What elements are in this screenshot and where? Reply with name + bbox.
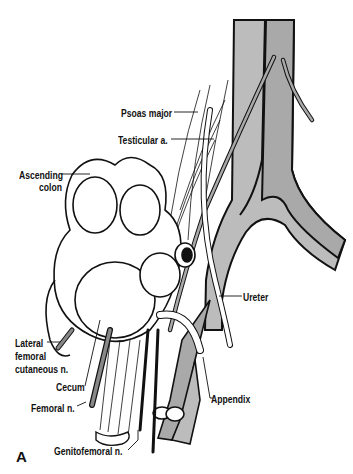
- panel-letter: A: [16, 448, 27, 465]
- label-femoral-nerve: Femoral n.: [31, 402, 75, 414]
- label-lateral-femoral-line3: cutaneous n.: [15, 363, 68, 375]
- great-vessels: [205, 20, 345, 330]
- label-lateral-femoral-line2: femoral: [15, 350, 46, 362]
- label-genitofemoral-nerve: Genitofemoral n.: [54, 445, 122, 457]
- label-ascending-colon-line1: Ascending: [19, 169, 63, 181]
- label-cecum: Cecum: [56, 381, 85, 393]
- label-testicular-artery: Testicular a.: [118, 134, 168, 146]
- label-ureter: Ureter: [243, 291, 268, 303]
- label-appendix: Appendix: [211, 393, 250, 405]
- label-ascending-colon-line2: colon: [39, 181, 62, 193]
- label-psoas-major: Psoas major: [121, 107, 172, 119]
- label-lateral-femoral-line1: Lateral: [15, 337, 43, 349]
